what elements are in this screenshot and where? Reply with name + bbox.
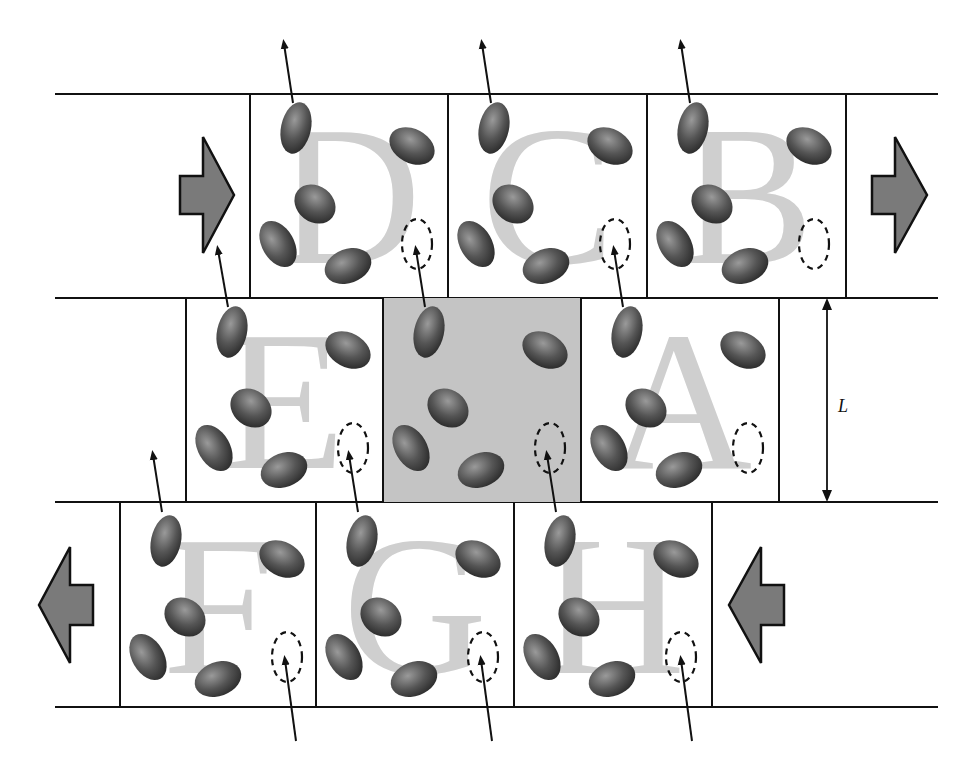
cell-D: D [252,85,442,306]
flow-arrow-right-icon [180,137,234,253]
hop-arrow-icon [285,660,296,741]
row-top: D C B [55,85,938,306]
cell-E: E [188,290,378,511]
row-bottom: F G H [39,495,938,716]
row-middle: E A L [55,290,938,511]
flow-arrow-left-icon [39,547,93,663]
hop-arrow-icon [153,455,162,512]
cell-G: G [318,495,508,716]
lattice-diagram: D C B E A [0,0,963,771]
cell-A: A [583,290,773,511]
dimension-label: L [837,396,848,416]
cell-B: B [649,85,839,306]
flow-arrow-left-icon [729,547,784,663]
cell-C: C [450,85,640,306]
flow-arrow-right-icon [872,137,927,253]
cell-F: F [122,495,312,716]
cell-H: H [516,495,706,716]
